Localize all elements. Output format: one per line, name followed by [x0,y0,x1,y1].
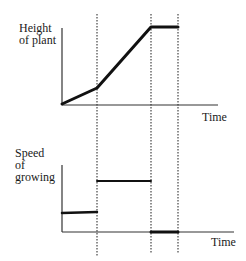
speed-low-segment [62,212,97,213]
top-y-label-line-2: of plant [19,34,56,46]
top-x-label: Time [202,111,227,123]
bottom-y-label-line-3: growing [15,171,55,183]
top-y-label: Height of plant [19,22,56,46]
speed-segments [62,181,178,232]
dotted-guides [97,14,178,256]
bottom-y-label: Speed of growing [15,147,55,183]
bottom-x-label: Time [211,236,236,248]
bottom-chart-axes [62,165,234,232]
height-curve [62,27,178,104]
